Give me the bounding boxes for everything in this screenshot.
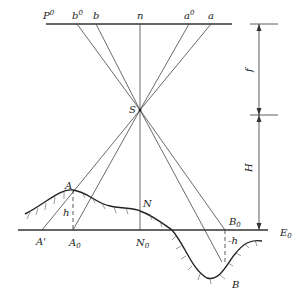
label-H: H bbox=[243, 163, 254, 173]
label-N: N bbox=[142, 198, 153, 209]
label-a: a bbox=[208, 10, 214, 21]
label-S: S bbox=[129, 104, 136, 115]
projection-center-S bbox=[139, 109, 142, 112]
label-b0: b0 bbox=[72, 9, 83, 21]
label-P0: P0 bbox=[42, 9, 55, 21]
label-N0: N0 bbox=[135, 237, 150, 250]
label-A-prime: A' bbox=[35, 236, 46, 247]
label-B0: B0 bbox=[228, 216, 241, 229]
label-n: n bbox=[137, 10, 143, 21]
label-f: f bbox=[243, 66, 254, 73]
label-neg-h: -h bbox=[228, 235, 238, 246]
label-h: h bbox=[63, 207, 69, 218]
label-E0: E0 bbox=[279, 227, 292, 240]
label-B: B bbox=[231, 279, 239, 290]
projection-rays bbox=[42, 24, 225, 262]
projection-diagram: P0 b0 b n a0 a S f H A h N A' A0 N0 B0 E… bbox=[0, 0, 300, 303]
label-A: A bbox=[64, 180, 72, 191]
dimension-markers bbox=[250, 24, 278, 230]
label-a0: a0 bbox=[184, 9, 195, 21]
label-b: b bbox=[93, 10, 99, 21]
label-A0: A0 bbox=[68, 237, 81, 250]
